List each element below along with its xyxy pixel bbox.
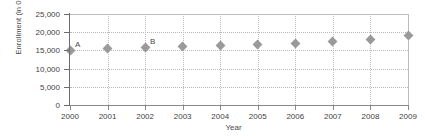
x-axis-tick-label: 2009: [386, 112, 425, 121]
gridline-horizontal: [70, 50, 408, 51]
plot-area: AB: [70, 14, 408, 105]
y-axis-tick-label: 25,000: [18, 10, 60, 19]
gridline-vertical: [333, 14, 334, 105]
x-axis-tick-mark: [333, 105, 334, 110]
x-axis-line: [69, 105, 408, 106]
gridline-horizontal: [70, 69, 408, 70]
data-point-marker: [253, 39, 263, 49]
data-point-annotation: A: [75, 40, 80, 49]
x-axis-tick-mark: [220, 105, 221, 110]
data-point-annotation: B: [150, 37, 155, 46]
gridline-vertical: [108, 14, 109, 105]
y-axis-tick-label: 15,000: [18, 46, 60, 55]
y-axis-tick-label: 0: [18, 101, 60, 110]
gridline-horizontal: [70, 14, 408, 15]
y-axis-tick-mark: [64, 69, 70, 70]
x-axis-tick-mark: [370, 105, 371, 110]
y-axis-tick-mark: [64, 87, 70, 88]
x-axis-tick-mark: [70, 105, 71, 110]
gridline-vertical: [258, 14, 259, 105]
y-axis-tick-label: 20,000: [18, 28, 60, 37]
gridline-vertical: [295, 14, 296, 105]
x-axis-tick-mark: [295, 105, 296, 110]
x-axis-tick-mark: [108, 105, 109, 110]
data-point-marker: [215, 40, 225, 50]
x-axis-title: Year: [0, 123, 425, 132]
x-axis-tick-mark: [408, 105, 409, 110]
y-axis-line: [69, 13, 70, 106]
gridline-vertical: [370, 14, 371, 105]
x-axis-tick-mark: [145, 105, 146, 110]
y-axis-tick-mark: [64, 14, 70, 15]
gridline-vertical: [220, 14, 221, 105]
gridline-horizontal: [70, 32, 408, 33]
x-axis-tick-mark: [183, 105, 184, 110]
data-point-marker: [290, 38, 300, 48]
data-point-marker: [365, 35, 375, 45]
x-axis-tick-mark: [258, 105, 259, 110]
gridline-vertical: [145, 14, 146, 105]
gridline-vertical: [408, 14, 409, 105]
y-axis-tick-mark: [64, 32, 70, 33]
gridline-vertical: [183, 14, 184, 105]
enrollment-scatter-chart: Enrollment (in 000s) 25,00020,00015,0001…: [0, 0, 425, 136]
y-axis-tick-label: 5,000: [18, 82, 60, 91]
data-point-marker: [103, 44, 113, 54]
y-axis-tick-mark: [64, 50, 70, 51]
gridline-horizontal: [70, 87, 408, 88]
data-point-marker: [328, 37, 338, 47]
y-axis-tick-label: 10,000: [18, 64, 60, 73]
